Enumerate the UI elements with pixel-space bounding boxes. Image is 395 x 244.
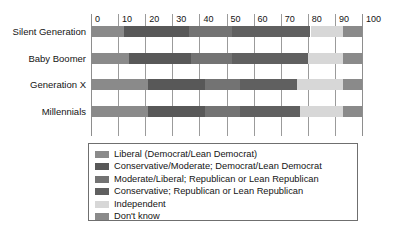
bar-segment [189, 26, 232, 37]
legend-item: Liberal (Democrat/Lean Democrat) [95, 148, 357, 160]
category-axis-labels: Silent GenerationBaby BoomerGeneration X… [0, 26, 86, 136]
bar-segment [191, 53, 232, 64]
bar-segment [91, 106, 148, 117]
legend-swatch [95, 163, 109, 170]
bar-segment [232, 26, 311, 37]
legend-swatch [95, 201, 109, 208]
x-tick-label: 100 [366, 14, 381, 25]
plot-area: Silent GenerationBaby BoomerGeneration X… [0, 0, 395, 140]
legend-item: Conservative/Moderate; Democrat/Lean Dem… [95, 161, 357, 173]
legend-label: Conservative/Moderate; Democrat/Lean Dem… [114, 161, 322, 172]
bar-segment [343, 79, 362, 90]
bar-segment [148, 79, 205, 90]
bar-segment [240, 106, 300, 117]
bar-segment [129, 53, 191, 64]
bar-segment [343, 106, 362, 117]
bar-segment [91, 79, 148, 90]
legend-swatch [95, 213, 109, 220]
bar-segment [205, 79, 240, 90]
bar-segment [91, 26, 124, 37]
bar-segment [205, 106, 240, 117]
bar-segment [124, 26, 189, 37]
gridline [362, 14, 363, 136]
bar-row [91, 53, 362, 64]
bar-series-container [91, 26, 362, 136]
bar-row [91, 26, 362, 37]
legend-label: Conservative; Republican or Lean Republi… [114, 186, 303, 197]
bar-segment [311, 26, 344, 37]
bar-row [91, 79, 362, 90]
legend-label: Moderate/Liberal; Republican or Lean Rep… [114, 174, 319, 185]
legend-item: Conservative; Republican or Lean Republi… [95, 186, 357, 198]
bar-segment [91, 53, 129, 64]
bar-segment [240, 79, 297, 90]
stacked-bar-chart: Silent GenerationBaby BoomerGeneration X… [0, 0, 395, 244]
category-label: Millennials [0, 107, 86, 117]
bar-segment [148, 106, 205, 117]
bar-row [91, 106, 362, 117]
category-label: Silent Generation [0, 27, 86, 37]
legend-item: Don't know [95, 211, 357, 222]
category-label: Generation X [0, 80, 86, 90]
legend-label: Independent [114, 199, 166, 210]
bar-segment [297, 79, 343, 90]
legend-swatch [95, 176, 109, 183]
legend-label: Liberal (Democrat/Lean Democrat) [114, 149, 257, 160]
bar-segment [308, 53, 343, 64]
legend-item: Moderate/Liberal; Republican or Lean Rep… [95, 173, 357, 185]
bar-segment [300, 106, 343, 117]
legend-item: Independent [95, 198, 357, 210]
bar-segment [232, 53, 308, 64]
legend-swatch [95, 151, 109, 158]
legend-swatch [95, 188, 109, 195]
category-label: Baby Boomer [0, 54, 86, 64]
bar-segment [343, 53, 362, 64]
chart-legend: Liberal (Democrat/Lean Democrat)Conserva… [88, 143, 358, 221]
bar-segment [343, 26, 362, 37]
legend-label: Don't know [114, 211, 160, 221]
